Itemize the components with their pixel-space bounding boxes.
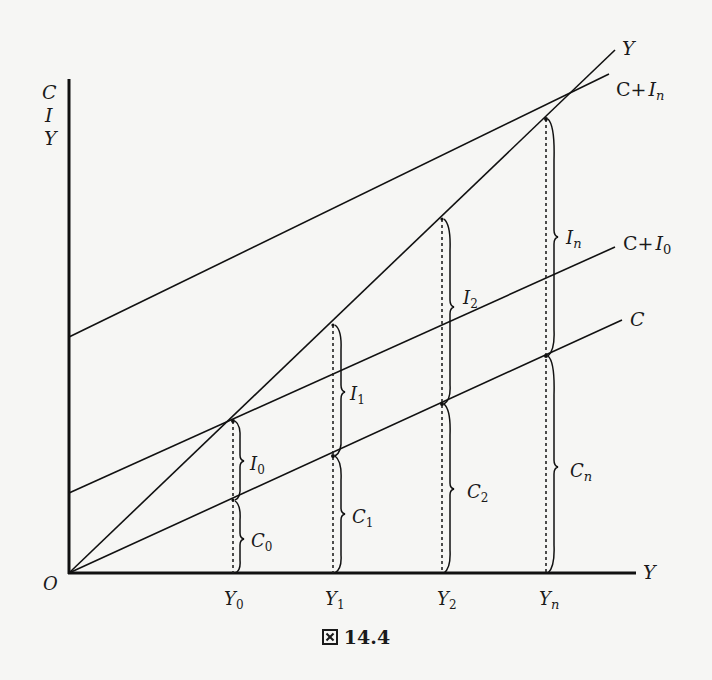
label-c-plus-i0: C+I0 [623,232,671,257]
brace-c0 [235,501,244,573]
tick-y1: Y1 [325,588,345,612]
origin-label: O [43,573,58,594]
svg-text:C+I0: C+I0 [623,232,671,257]
brace-i1 [335,325,345,456]
y-axis-label-i: I [44,104,53,126]
figure-caption: 14.4 [0,626,712,648]
figure-kanji-icon [322,629,338,645]
brace-label-i1: I1 [349,383,365,407]
svg-text:C+In: C+In [616,78,664,103]
brace-label-c1: C1 [352,506,373,530]
line-c [69,320,622,573]
x-axis-label: Y [643,561,658,583]
brace-label-i0: I0 [249,453,265,477]
label-c-plus-in: C+In [616,78,664,103]
brace-cn [548,356,558,573]
line-45-degree-y [69,50,615,573]
brace-c1 [335,456,345,573]
brace-i0 [235,421,244,500]
y-axis-label-y: Y [44,127,59,149]
y-axis-label-c: C [42,81,57,103]
brace-in [548,119,558,356]
brace-label-i2: I2 [462,287,478,311]
tick-yn: Yn [539,588,559,612]
multiplier-diagram: C I Y O Y Y C+In C+I0 C I0 C0 [0,0,712,680]
line-c-plus-i0 [69,247,615,493]
brace-label-c0: C0 [251,530,272,554]
brace-label-c2: C2 [467,481,488,505]
caption-number: 14.4 [344,626,390,648]
label-y-line: Y [622,37,637,59]
brace-label-in: In [565,227,582,251]
label-c-line: C [630,308,645,330]
tick-y0: Y0 [224,588,244,612]
tick-y2: Y2 [437,588,457,612]
line-c-plus-in [69,74,609,337]
brace-i2 [444,219,454,404]
brace-label-cn: Cn [570,460,592,484]
brace-c2 [444,404,454,573]
